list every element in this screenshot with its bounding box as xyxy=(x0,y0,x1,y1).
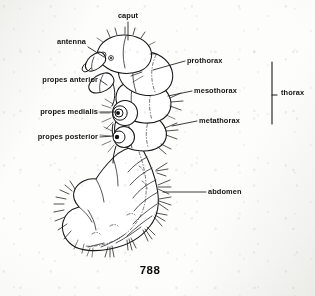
thorax-bracket xyxy=(272,62,277,124)
label-propes-anterior: propes anterior xyxy=(42,75,98,84)
label-thorax: thorax xyxy=(281,88,305,97)
leader-mesothorax xyxy=(168,91,192,96)
label-prothorax: prothorax xyxy=(187,56,223,65)
abdomen-outline xyxy=(62,147,158,251)
label-mesothorax: mesothorax xyxy=(194,86,238,95)
larva-anatomy-figure: caput antenna propes anterior propes med… xyxy=(0,0,315,296)
propes-medialis-leg xyxy=(113,101,138,126)
mouthparts xyxy=(85,52,105,71)
label-propes-posterior: propes posterior xyxy=(38,132,98,141)
ventral-connective xyxy=(112,84,115,106)
propes-medialis-core xyxy=(116,111,120,115)
propes-posterior-core xyxy=(115,135,119,139)
propes-medialis-bristles xyxy=(100,99,113,129)
label-antenna: antenna xyxy=(57,37,87,46)
leader-propes-posterior xyxy=(100,136,113,137)
figure-number: 788 xyxy=(140,264,161,276)
propes-posterior-leg xyxy=(113,127,135,148)
ocellus-dot xyxy=(110,57,112,59)
label-metathorax: metathorax xyxy=(199,116,241,125)
figure-page: caput antenna propes anterior propes med… xyxy=(0,0,315,296)
ventral-connective-2 xyxy=(112,124,113,136)
label-abdomen: abdomen xyxy=(208,187,242,196)
label-propes-medialis: propes medialis xyxy=(40,107,98,116)
larva-drawing xyxy=(54,27,183,257)
label-caput: caput xyxy=(118,11,139,20)
